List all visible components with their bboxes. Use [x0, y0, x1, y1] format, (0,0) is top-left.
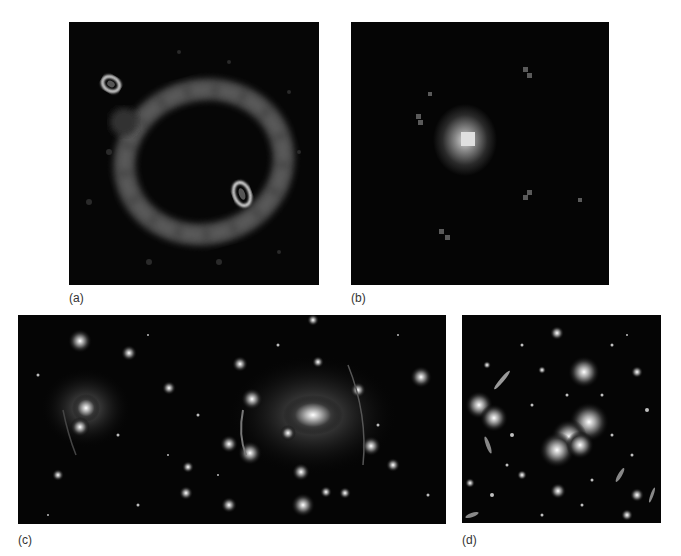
panel-a-label: (a): [69, 291, 84, 305]
einstein-ring-image: [69, 22, 319, 285]
panel-c-label: (c): [18, 533, 32, 547]
panel-c-galaxy-cluster-wide: [18, 315, 446, 524]
galaxy-cluster-image: [462, 315, 661, 523]
panel-d-label: (d): [462, 533, 477, 547]
panel-a-einstein-ring: [69, 22, 319, 285]
panel-b-label: (b): [351, 291, 366, 305]
panel-b-point-source: [351, 22, 609, 285]
point-source-image: [351, 22, 609, 285]
galaxy-cluster-wide-image: [18, 315, 446, 524]
panel-d-galaxy-cluster: [462, 315, 661, 523]
